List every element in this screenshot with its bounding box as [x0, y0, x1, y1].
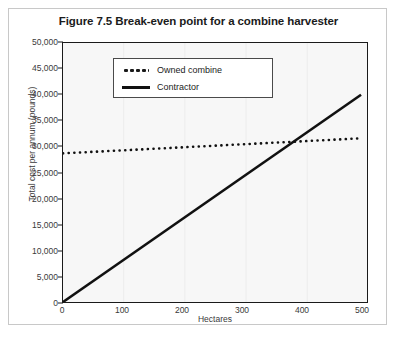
dotted-line-icon — [121, 65, 151, 75]
chart-title: Figure 7.5 Break-even point for a combin… — [9, 15, 388, 27]
legend-label-owned-combine: Owned combine — [157, 65, 222, 75]
figure-frame: Figure 7.5 Break-even point for a combin… — [8, 8, 387, 325]
chart-legend: Owned combine Contractor — [113, 58, 273, 98]
solid-line-icon — [121, 82, 151, 92]
series-line-owned-combine — [63, 138, 361, 153]
legend-item-owned-combine: Owned combine — [121, 63, 222, 77]
y-axis-label: Total cost per annum (pounds) — [27, 59, 37, 229]
legend-item-contractor: Contractor — [121, 80, 199, 94]
legend-label-contractor: Contractor — [157, 82, 199, 92]
x-axis-label: Hectares — [62, 314, 368, 324]
series-line-contractor — [63, 95, 361, 302]
